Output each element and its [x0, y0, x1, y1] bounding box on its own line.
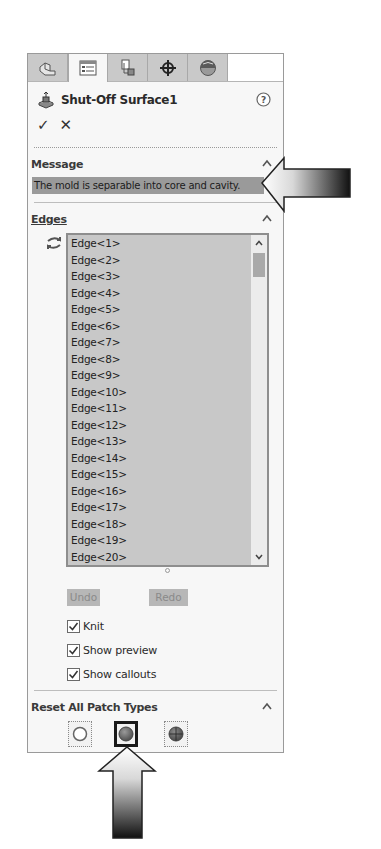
scroll-down-button[interactable]	[251, 549, 267, 565]
show-preview-checkbox[interactable]	[67, 644, 80, 657]
edges-section-title: Edges	[31, 213, 67, 226]
list-item[interactable]: Edge<10>	[68, 384, 251, 401]
message-section-title: Message	[31, 158, 83, 171]
edges-list: Edge<1> Edge<2> Edge<3> Edge<4> Edge<5> …	[68, 235, 251, 565]
list-item[interactable]: Edge<18>	[68, 516, 251, 533]
listbox-resize-handle[interactable]	[165, 568, 170, 573]
no-fill-patch-button[interactable]	[68, 721, 92, 747]
feature-tree-icon	[37, 59, 59, 77]
edges-section-header[interactable]: Edges	[31, 211, 275, 227]
feature-title: Shut-Off Surface1	[61, 93, 177, 107]
list-item[interactable]: Edge<12>	[68, 417, 251, 434]
list-item[interactable]: Edge<19>	[68, 532, 251, 549]
list-item[interactable]: Edge<7>	[68, 334, 251, 351]
redo-button[interactable]: Redo	[149, 589, 188, 606]
reset-patch-section-header[interactable]: Reset All Patch Types	[31, 699, 275, 715]
feature-title-row: Shut-Off Surface1 ?	[37, 90, 275, 110]
scroll-up-button[interactable]	[251, 235, 267, 251]
show-callouts-option[interactable]: Show callouts	[67, 666, 156, 682]
knit-label: Knit	[83, 620, 104, 633]
scroll-thumb[interactable]	[253, 253, 265, 277]
tangent-sphere-icon	[168, 726, 184, 742]
cancel-button[interactable]: ✕	[60, 116, 73, 134]
chevron-up-icon	[255, 240, 263, 246]
checkmark-icon	[68, 621, 79, 632]
list-item[interactable]: Edge<6>	[68, 318, 251, 335]
crosshair-icon	[159, 59, 177, 77]
divider	[34, 202, 277, 203]
ok-button[interactable]: ✓	[37, 116, 50, 134]
message-section-header[interactable]: Message	[31, 156, 275, 172]
list-item[interactable]: Edge<5>	[68, 301, 251, 318]
list-item[interactable]: Edge<8>	[68, 351, 251, 368]
divider	[34, 690, 277, 691]
list-item[interactable]: Edge<14>	[68, 450, 251, 467]
configuration-manager-icon	[119, 59, 137, 77]
list-item[interactable]: Edge<17>	[68, 499, 251, 516]
tab-propertymanager[interactable]	[68, 54, 108, 82]
help-icon[interactable]: ?	[256, 92, 271, 107]
contact-patch-button[interactable]	[114, 721, 138, 747]
list-item[interactable]: Edge<13>	[68, 433, 251, 450]
divider	[34, 147, 277, 148]
list-item[interactable]: Edge<3>	[68, 268, 251, 285]
tangent-patch-button[interactable]	[164, 721, 188, 747]
list-item[interactable]: Edge<15>	[68, 466, 251, 483]
list-item[interactable]: Edge<1>	[68, 235, 251, 252]
show-preview-option[interactable]: Show preview	[67, 642, 157, 658]
ok-cancel-row: ✓ ✕	[37, 116, 72, 134]
checkmark-icon	[68, 645, 79, 656]
show-callouts-checkbox[interactable]	[67, 668, 80, 681]
chevron-up-icon[interactable]	[262, 214, 272, 222]
message-text: The mold is separable into core and cavi…	[32, 177, 264, 194]
appearance-sphere-icon	[199, 59, 217, 77]
edges-scrollbar[interactable]	[251, 235, 267, 565]
knit-option[interactable]: Knit	[67, 618, 104, 634]
property-manager-panel: Shut-Off Surface1 ? ✓ ✕ Message The mold…	[27, 53, 284, 753]
reset-patch-section-title: Reset All Patch Types	[31, 701, 158, 714]
chevron-up-icon[interactable]	[262, 702, 272, 710]
callout-arrow-left-icon	[260, 155, 355, 215]
list-item[interactable]: Edge<20>	[68, 549, 251, 566]
list-item[interactable]: Edge<11>	[68, 400, 251, 417]
checkmark-icon	[68, 669, 79, 680]
tab-configurationmanager[interactable]	[108, 54, 148, 81]
filled-sphere-icon	[118, 726, 134, 742]
show-callouts-label: Show callouts	[83, 668, 156, 681]
tab-dimxpertmanager[interactable]	[148, 54, 188, 81]
shut-off-surface-icon	[37, 91, 55, 109]
list-item[interactable]: Edge<4>	[68, 285, 251, 302]
chevron-down-icon	[255, 554, 263, 560]
svg-text:?: ?	[261, 95, 266, 105]
undo-button[interactable]: Undo	[67, 589, 100, 606]
tab-displaymanager[interactable]	[188, 54, 228, 81]
show-preview-label: Show preview	[83, 644, 157, 657]
tab-featuremanager[interactable]	[28, 54, 68, 81]
empty-circle-icon	[72, 726, 88, 742]
edges-listbox[interactable]: Edge<1> Edge<2> Edge<3> Edge<4> Edge<5> …	[66, 233, 269, 567]
flip-direction-icon[interactable]	[45, 235, 63, 251]
list-item[interactable]: Edge<9>	[68, 367, 251, 384]
knit-checkbox[interactable]	[67, 620, 80, 633]
list-item[interactable]: Edge<16>	[68, 483, 251, 500]
property-manager-icon	[79, 60, 97, 76]
list-item[interactable]: Edge<2>	[68, 252, 251, 269]
manager-tabs	[28, 54, 283, 82]
callout-arrow-up-icon	[97, 745, 159, 841]
